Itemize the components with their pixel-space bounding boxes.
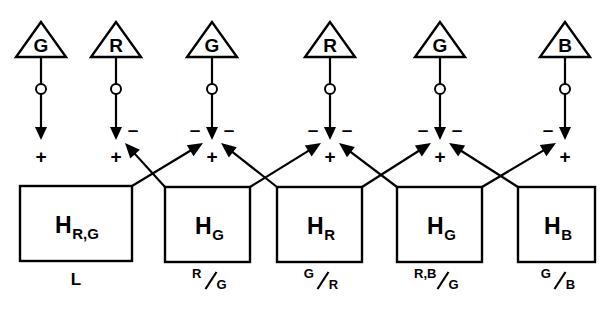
horizontal-cell-label-subscript: R,G — [72, 225, 99, 242]
axons-layer — [35, 57, 571, 140]
bottom-label-5: GB — [541, 266, 576, 292]
feedback-line-segment — [459, 149, 518, 187]
minus-sign-left: – — [190, 119, 201, 140]
bottom-label-numerator: G — [541, 266, 551, 281]
bottom-label-numerator: R — [192, 266, 202, 281]
terminal-1: + — [35, 146, 46, 167]
horizontal-cells-layer: HR,GHGHRHGHB — [20, 186, 595, 262]
cone-label: G — [433, 35, 448, 56]
bottom-label-slash — [438, 272, 449, 289]
feedback-line-segment — [482, 149, 546, 187]
plus-sign: + — [35, 146, 46, 167]
cone-2[interactable]: R — [91, 22, 141, 57]
circuit-diagram: GRGRGB HR,GHGHRHGHB ++–+––+––+––+– LRGGR… — [0, 0, 606, 313]
hz-3[interactable]: HR — [277, 187, 362, 262]
plus-sign: + — [559, 146, 570, 167]
minus-sign-left: – — [418, 119, 429, 140]
horizontal-cell-label-subscript: B — [561, 226, 572, 243]
hz-1[interactable]: HR,G — [20, 186, 132, 261]
bottom-label-3: GR — [304, 266, 339, 292]
feedback-connection-3 — [250, 143, 321, 187]
horizontal-cell-label-main: H — [427, 213, 444, 239]
bottom-label-denominator: B — [566, 277, 575, 292]
cone-axon-3 — [206, 57, 218, 140]
synapse-circle-icon — [435, 84, 445, 94]
horizontal-cell-label-main: H — [544, 213, 561, 239]
cone-label: G — [205, 35, 220, 56]
cone-axon-4 — [324, 57, 336, 140]
cones-layer: GRGRGB — [16, 22, 590, 57]
feedback-arrowhead-icon — [305, 143, 321, 156]
bottom-label-numerator: G — [304, 266, 314, 281]
feedback-layer — [125, 143, 556, 187]
cone-label: R — [323, 35, 337, 56]
feedback-connection-7 — [482, 143, 556, 187]
feedback-line-segment — [250, 149, 311, 187]
synapse-circle-icon — [111, 84, 121, 94]
minus-sign-right: – — [128, 119, 139, 140]
minus-sign-left: – — [308, 119, 319, 140]
minus-sign-right: – — [224, 119, 235, 140]
bottom-label-slash — [318, 272, 329, 289]
bottom-label-denominator: G — [448, 277, 458, 292]
bottom-label-denominator: G — [216, 277, 226, 292]
bottom-label-2: RG — [192, 266, 227, 292]
axon-arrowhead-icon — [324, 127, 336, 140]
bottom-labels-layer: LRGGRR,BGGB — [71, 266, 575, 292]
horizontal-cell-label-main: H — [307, 213, 324, 239]
plus-sign: + — [324, 146, 335, 167]
cone-4[interactable]: R — [305, 22, 355, 57]
plus-sign: + — [206, 146, 217, 167]
feedback-line-segment — [230, 150, 277, 187]
terminal-2: +– — [110, 119, 138, 167]
feedback-connection-2 — [125, 143, 165, 187]
horizontal-cell-label-subscript: R — [324, 226, 335, 243]
terminal-6: +– — [543, 119, 571, 167]
axon-arrowhead-icon — [559, 127, 571, 140]
bottom-label-slash — [206, 272, 217, 289]
feedback-connection-5 — [362, 143, 431, 187]
feedback-connection-8 — [449, 143, 518, 187]
cone-axon-1 — [35, 57, 47, 140]
horizontal-cell-label-subscript: G — [444, 226, 456, 243]
cone-3[interactable]: G — [187, 22, 237, 57]
bottom-label-1: L — [71, 270, 81, 289]
plus-sign: + — [434, 146, 445, 167]
cone-5[interactable]: G — [415, 22, 465, 57]
synapse-circle-icon — [560, 84, 570, 94]
horizontal-cell-label-main: H — [195, 213, 212, 239]
horizontal-cell-box — [20, 186, 132, 261]
synapse-circle-icon — [36, 84, 46, 94]
cone-axon-2 — [110, 57, 122, 140]
minus-sign-right: – — [452, 119, 463, 140]
diagram-canvas: GRGRGB HR,GHGHRHGHB ++–+––+––+––+– LRGGR… — [0, 0, 606, 313]
hz-2[interactable]: HG — [165, 187, 250, 262]
cone-6[interactable]: B — [540, 22, 590, 57]
hz-5[interactable]: HB — [518, 187, 595, 262]
feedback-arrowhead-icon — [415, 143, 431, 157]
horizontal-cell-label-main: H — [55, 212, 72, 238]
axon-arrowhead-icon — [110, 127, 122, 140]
bottom-label-text: L — [71, 270, 81, 289]
minus-sign-left: – — [543, 119, 554, 140]
axon-arrowhead-icon — [206, 127, 218, 140]
cone-1[interactable]: G — [16, 22, 66, 57]
cone-axon-6 — [559, 57, 571, 140]
cone-label: G — [34, 35, 49, 56]
axon-arrowhead-icon — [35, 127, 47, 140]
cone-label: R — [109, 35, 123, 56]
hz-4[interactable]: HG — [397, 187, 482, 262]
cone-label: B — [558, 35, 572, 56]
feedback-connection-4 — [221, 143, 277, 187]
feedback-arrowhead-icon — [187, 143, 203, 156]
bottom-label-4: R,BG — [414, 266, 459, 292]
synapse-circle-icon — [207, 84, 217, 94]
feedback-connection-1 — [132, 143, 203, 186]
synapse-circle-icon — [325, 84, 335, 94]
feedback-line-segment — [132, 149, 193, 186]
axon-arrowhead-icon — [434, 127, 446, 140]
bottom-label-denominator: R — [329, 277, 339, 292]
bottom-label-slash — [555, 272, 566, 289]
feedback-arrowhead-icon — [339, 143, 355, 157]
cone-axon-5 — [434, 57, 446, 140]
